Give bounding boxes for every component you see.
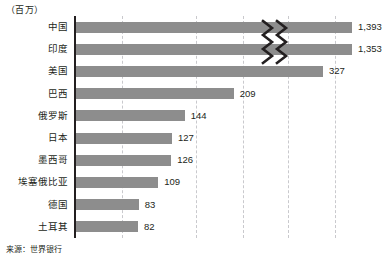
bar-row: 土耳其82 [0, 216, 379, 238]
bar [76, 199, 139, 210]
bar-row: 俄罗斯144 [0, 105, 379, 127]
bar-value-label: 109 [164, 171, 180, 193]
source-note: 来源：世界银行 [6, 243, 62, 254]
category-label: 俄罗斯 [0, 105, 68, 127]
category-label: 中国 [0, 16, 68, 38]
bar-row: 中国1,393 [0, 16, 379, 38]
bar [76, 133, 172, 144]
bar-value-label: 1,353 [358, 38, 382, 60]
category-label: 德国 [0, 194, 68, 216]
bar-row: 墨西哥126 [0, 149, 379, 171]
category-label: 印度 [0, 38, 68, 60]
bar-row: 美国327 [0, 60, 379, 82]
bar [76, 66, 323, 77]
bar-row: 德国83 [0, 194, 379, 216]
bar-row: 埃塞俄比亚109 [0, 171, 379, 193]
bar-row: 日本127 [0, 127, 379, 149]
bar [76, 110, 185, 121]
bar [76, 155, 171, 166]
bar [76, 221, 138, 232]
bar-value-label: 1,393 [358, 16, 382, 38]
bar-value-label: 327 [329, 60, 345, 82]
category-label: 土耳其 [0, 216, 68, 238]
bar [76, 22, 352, 33]
bar-row: 印度1,353 [0, 38, 379, 60]
category-label: 埃塞俄比亚 [0, 171, 68, 193]
bar-value-label: 126 [177, 149, 193, 171]
bar [76, 177, 158, 188]
category-label: 墨西哥 [0, 149, 68, 171]
category-label: 美国 [0, 60, 68, 82]
bar-row: 巴西209 [0, 83, 379, 105]
bar-value-label: 209 [240, 83, 256, 105]
category-label: 巴西 [0, 83, 68, 105]
bar [76, 88, 234, 99]
bar-value-label: 82 [144, 216, 155, 238]
bar-value-label: 127 [178, 127, 194, 149]
bar [76, 44, 352, 55]
chart-plot-area: 中国1,393印度1,353美国327巴西209俄罗斯144日本127墨西哥12… [0, 16, 379, 238]
category-label: 日本 [0, 127, 68, 149]
bar-value-label: 83 [145, 194, 156, 216]
bar-rows: 中国1,393印度1,353美国327巴西209俄罗斯144日本127墨西哥12… [0, 16, 379, 238]
bar-value-label: 144 [191, 105, 207, 127]
unit-label: （百万） [6, 3, 43, 16]
